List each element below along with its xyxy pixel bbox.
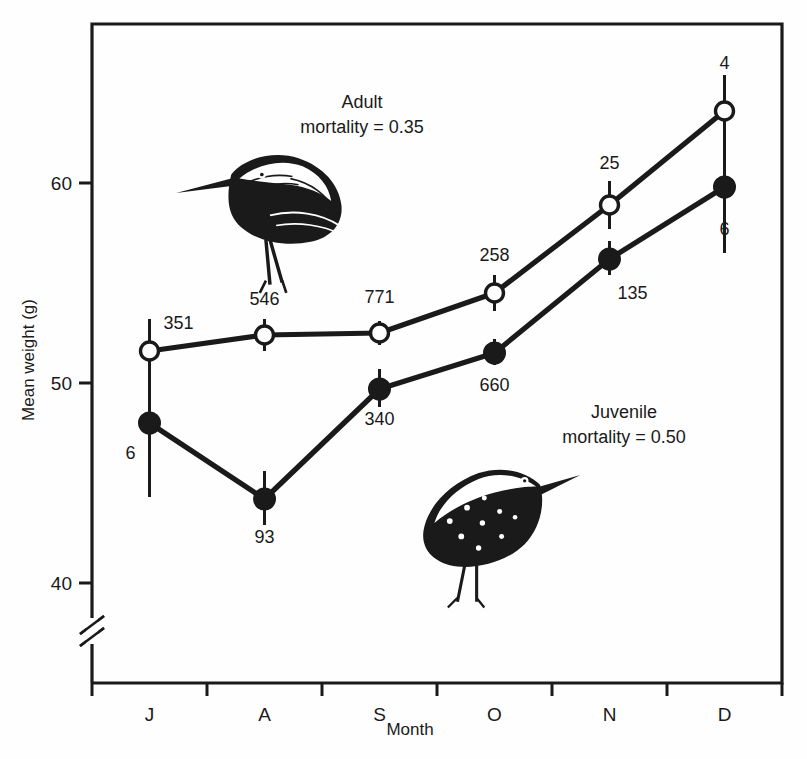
y-axis-break-icon: [80, 616, 104, 646]
x-tick-label: D: [718, 704, 732, 725]
series-line: [150, 111, 725, 351]
series-line: [150, 187, 725, 499]
data-point-adult-O: [486, 284, 504, 302]
figure-root: 405060 JASOND Month Mean weight (g) 3515…: [0, 0, 807, 759]
sample-size-label: 771: [364, 287, 394, 307]
frame-border: [92, 24, 782, 683]
adult-bird-illustration: [176, 155, 341, 293]
x-axis-ticks: [92, 683, 782, 696]
x-tick-label: O: [487, 704, 502, 725]
data-point-juvenile-S: [369, 379, 390, 400]
juvenile-annotation-line1: Juvenile: [591, 402, 657, 422]
y-tick-label: 40: [51, 573, 72, 594]
x-axis-title: Month: [386, 720, 433, 739]
x-tick-labels: JASOND: [145, 704, 732, 725]
sample-size-label: 660: [479, 375, 509, 395]
y-tick-labels: 405060: [51, 173, 72, 594]
plot-frame: [92, 24, 782, 683]
data-point-juvenile-A: [254, 489, 275, 510]
data-point-adult-A: [256, 326, 274, 344]
y-tick-label: 60: [51, 173, 72, 194]
data-point-juvenile-D: [714, 177, 735, 198]
data-point-adult-D: [716, 102, 734, 120]
sample-size-labels: 3515467712582546933406601356: [125, 53, 729, 547]
sample-size-label: 93: [254, 527, 274, 547]
juvenile-annotation: Juvenile mortality = 0.50: [562, 402, 686, 447]
data-point-adult-S: [371, 324, 389, 342]
y-axis-title: Mean weight (g): [19, 299, 38, 421]
sample-size-label: 6: [719, 219, 729, 239]
sample-size-label: 4: [719, 53, 729, 73]
x-tick-label: J: [145, 704, 155, 725]
adult-annotation: Adult mortality = 0.35: [300, 92, 424, 137]
series-markers: [139, 102, 735, 510]
juvenile-bird-illustration: [423, 470, 580, 608]
data-point-juvenile-N: [599, 249, 620, 270]
sample-size-label: 546: [249, 289, 279, 309]
adult-annotation-line2: mortality = 0.35: [300, 117, 424, 137]
mean-weight-by-month-chart: 405060 JASOND Month Mean weight (g) 3515…: [0, 0, 807, 759]
sample-size-label: 6: [125, 443, 135, 463]
sample-size-label: 351: [164, 313, 194, 333]
data-point-adult-J: [141, 342, 159, 360]
data-point-adult-N: [601, 196, 619, 214]
y-axis-ticks: [79, 183, 92, 583]
x-tick-label: S: [373, 704, 386, 725]
data-point-juvenile-J: [139, 413, 160, 434]
x-tick-label: A: [258, 704, 271, 725]
data-point-juvenile-O: [484, 343, 505, 364]
x-tick-label: N: [603, 704, 617, 725]
sample-size-label: 135: [618, 283, 648, 303]
juvenile-annotation-line2: mortality = 0.50: [562, 427, 686, 447]
sample-size-label: 340: [364, 409, 394, 429]
sample-size-label: 25: [599, 153, 619, 173]
y-tick-label: 50: [51, 373, 72, 394]
sample-size-label: 258: [479, 245, 509, 265]
adult-annotation-line1: Adult: [341, 92, 382, 112]
